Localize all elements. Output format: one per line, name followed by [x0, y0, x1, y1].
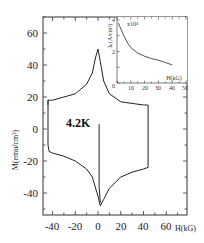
- inset-x-tick-30: 30: [155, 85, 161, 91]
- x-axis-title: H(kG): [175, 224, 196, 233]
- x-tick-20: 20: [116, 220, 128, 232]
- y-tick-0: 0: [33, 123, 39, 135]
- x-tick-neg20: -20: [68, 220, 83, 232]
- inset-x-tick-20: 20: [142, 85, 148, 91]
- x-tick-0: 0: [95, 220, 101, 232]
- curve-segment-4: [99, 124, 100, 202]
- inset-y-title: Jₖ(A/cm²): [107, 24, 114, 48]
- y-axis-title: M(emu/cm³): [11, 129, 20, 170]
- x-tick-60: 60: [161, 220, 173, 232]
- curve-segment-1: [48, 100, 49, 151]
- y-tick-neg20: -20: [23, 155, 38, 167]
- x-tick-neg40: -40: [45, 220, 60, 232]
- inset-x-tick-50: 50: [182, 85, 188, 91]
- inset-origin-label: 0: [112, 83, 115, 89]
- inset-x-tick-40: 40: [169, 85, 175, 91]
- y-tick-40: 40: [27, 59, 39, 71]
- inset-y-tick-2: 2: [112, 49, 115, 55]
- hysteresis-chart: 60 40 20 0 -20 -40 -40 -20 0 20 40 60 H(…: [0, 0, 204, 243]
- y-tick-60: 60: [27, 27, 39, 39]
- x-tick-40: 40: [138, 220, 150, 232]
- inset-y-tick-4: 4: [112, 17, 115, 23]
- inset-x-title: H(kG): [166, 75, 182, 82]
- inset-x-tick-10: 10: [128, 85, 134, 91]
- y-tick-20: 20: [27, 91, 39, 103]
- temperature-annotation: 4.2K: [66, 116, 91, 130]
- inset-multiplier: x10⁴: [127, 21, 138, 27]
- y-tick-neg40: -40: [23, 187, 38, 199]
